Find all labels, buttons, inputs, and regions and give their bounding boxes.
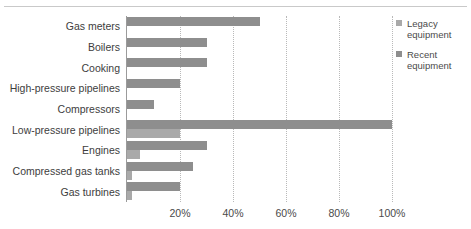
top-divider [4,6,467,7]
x-tick-label: 60% [275,207,296,219]
category-label: Cooking [81,63,120,74]
bar-legacy [127,150,140,159]
bar-recent [127,162,193,171]
legend-label-line2: equipment [407,60,468,71]
category-label: Gas meters [66,21,120,32]
bar-row: Cooking [127,57,392,78]
bar-rows: Gas metersBoilersCookingHigh-pressure pi… [127,16,392,202]
category-label: Engines [82,145,120,156]
legend-label-line1: Legacy [407,18,468,29]
category-label: Compressed gas tanks [13,166,120,177]
bar-row: Boilers [127,37,392,58]
bar-recent [127,100,154,109]
bar-recent [127,141,207,150]
category-label: Low-pressure pipelines [12,125,120,136]
category-label: High-pressure pipelines [10,83,120,94]
x-axis-tick-labels: 20%40%60%80%100% [127,207,392,223]
legend-swatch-icon [396,51,402,57]
legend: LegacyequipmentRecentequipment [396,18,468,80]
bar-row: High-pressure pipelines [127,78,392,99]
bar-recent [127,120,392,129]
x-tick-label: 80% [328,207,349,219]
bar-row: Compressors [127,99,392,120]
bar-recent [127,58,207,67]
bar-recent [127,17,260,26]
x-tick-label: 40% [222,207,243,219]
bar-row: Gas meters [127,16,392,37]
bar-legacy [127,129,180,138]
bar-row: Low-pressure pipelines [127,119,392,140]
chart-container: Gas metersBoilersCookingHigh-pressure pi… [0,0,471,229]
legend-swatch-icon [396,20,402,26]
category-label: Compressors [58,104,120,115]
x-tick-label: 100% [379,207,406,219]
bar-row: Gas turbines [127,181,392,202]
legend-item-recent[interactable]: Recentequipment [396,49,468,71]
bar-legacy [127,171,132,180]
bar-row: Engines [127,140,392,161]
bar-row: Compressed gas tanks [127,161,392,182]
gridline-100 [392,16,393,202]
category-label: Boilers [88,42,120,53]
bar-recent [127,182,180,191]
legend-label-line1: Recent [407,49,468,60]
x-tick-label: 20% [169,207,190,219]
category-label: Gas turbines [60,187,120,198]
bar-recent [127,79,180,88]
plot-area: Gas metersBoilersCookingHigh-pressure pi… [127,16,392,202]
bar-recent [127,38,207,47]
bar-legacy [127,191,132,200]
legend-item-legacy[interactable]: Legacyequipment [396,18,468,40]
cropped-title-text [0,0,471,5]
legend-label-line2: equipment [407,29,468,40]
